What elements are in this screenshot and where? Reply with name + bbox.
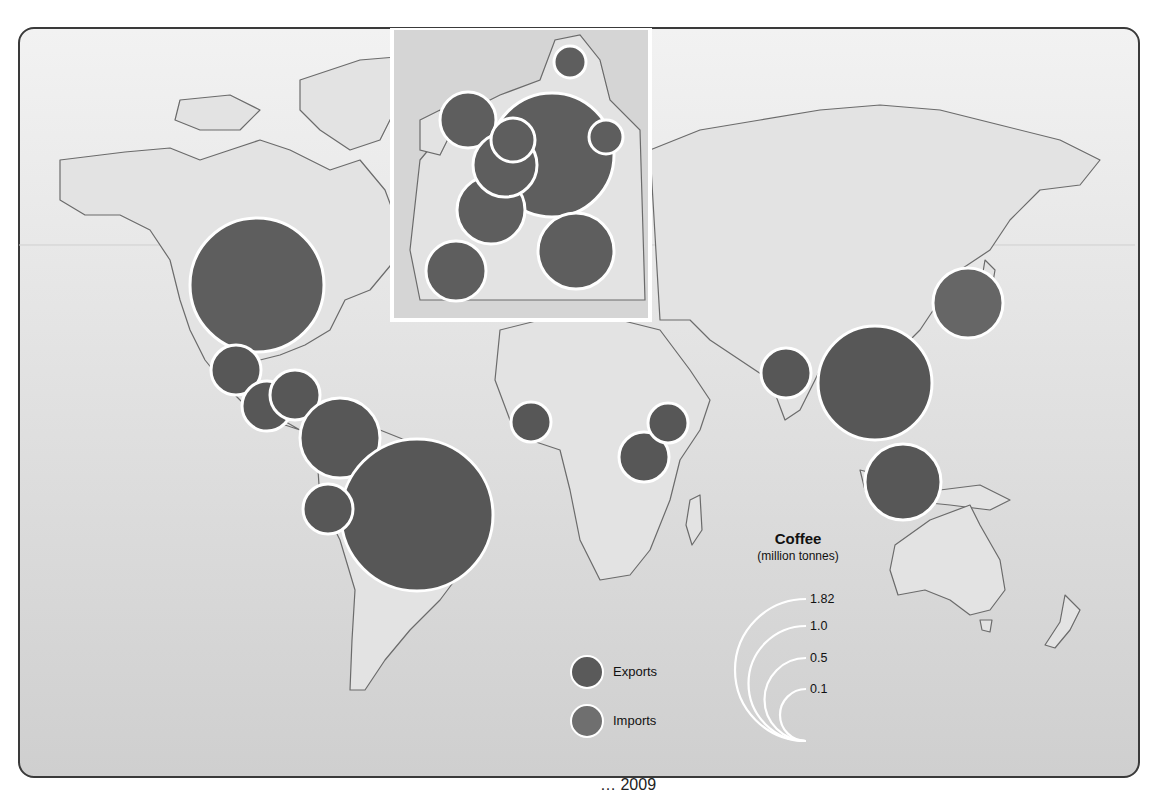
imports-key-label: Imports [613, 713, 656, 728]
scale-label-0-1: 0.1 [810, 682, 827, 696]
exports-key-swatch [570, 655, 604, 689]
arctic-islands [175, 95, 260, 130]
legend-unit: (million tonnes) [718, 549, 878, 563]
symbol-usa-imports [190, 218, 324, 352]
symbol-poland-imports [589, 120, 623, 154]
scale-label-1: 1.0 [810, 619, 827, 633]
legend-scale-arcs [735, 599, 806, 741]
symbol-japan-imports [933, 268, 1003, 338]
symbol-vietnam-exports [818, 326, 932, 440]
imports-key-swatch [570, 704, 604, 738]
symbol-brazil-exports [341, 439, 493, 591]
exports-key-label: Exports [613, 664, 657, 679]
symbol-sweden-imports [554, 46, 586, 78]
legend-title: Coffee [738, 530, 858, 547]
symbol-netherlands-imports [491, 118, 535, 162]
symbol-india-exports [761, 348, 811, 398]
africa-landmass [495, 315, 710, 580]
symbol-peru-exports [303, 484, 353, 534]
symbol-uganda-exports [648, 403, 688, 443]
madagascar-landmass [686, 495, 702, 545]
figure-caption-partial: … 2009 [600, 776, 656, 794]
new-zealand-landmass [1045, 595, 1080, 648]
scale-arc-0-1 [780, 689, 806, 741]
scale-arc-1-0 [749, 626, 807, 741]
symbol-italy-imports [538, 213, 614, 289]
australia-landmass [890, 505, 1005, 615]
tasmania-landmass [980, 620, 992, 632]
scale-label-0-5: 0.5 [810, 651, 827, 665]
symbol-spain-imports [426, 241, 486, 301]
symbol-cote-divoire-exports [511, 402, 551, 442]
scale-label-max: 1.82 [810, 592, 834, 606]
symbol-indonesia-exports [865, 444, 941, 520]
